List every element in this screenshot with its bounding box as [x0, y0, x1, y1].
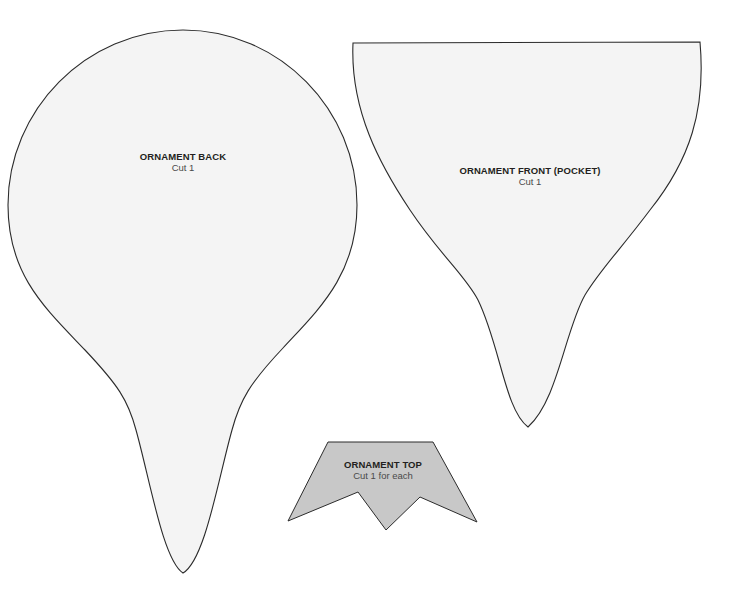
ornament-top-shape [288, 442, 477, 530]
ornament-top-label: ORNAMENT TOP Cut 1 for each [323, 460, 443, 482]
pattern-sheet [0, 0, 731, 607]
ornament-front-label: ORNAMENT FRONT (POCKET) Cut 1 [440, 166, 620, 188]
ornament-back-instruction: Cut 1 [108, 163, 258, 174]
ornament-front-instruction: Cut 1 [440, 177, 620, 188]
ornament-back-label: ORNAMENT BACK Cut 1 [108, 152, 258, 174]
ornament-front-shape [353, 42, 701, 427]
ornament-top-instruction: Cut 1 for each [323, 471, 443, 482]
